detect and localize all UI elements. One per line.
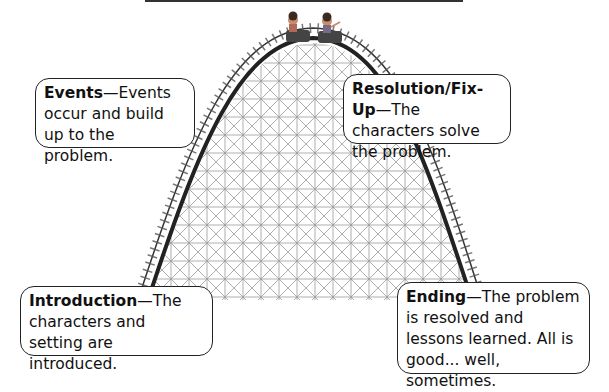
events-title: Events <box>44 84 103 102</box>
coaster-car-2 <box>318 13 342 44</box>
ending-title: Ending <box>406 288 466 306</box>
introduction-title: Introduction <box>29 292 137 310</box>
introduction-box: Introduction—The characters and setting … <box>20 286 213 356</box>
resolution-box: Resolution/Fix-Up—The characters solve t… <box>343 74 511 144</box>
events-box: Events—Events occur and build up to the … <box>35 78 195 148</box>
ending-box: Ending—The problem is resolved and lesso… <box>397 282 590 374</box>
coaster-car-1 <box>286 12 310 43</box>
